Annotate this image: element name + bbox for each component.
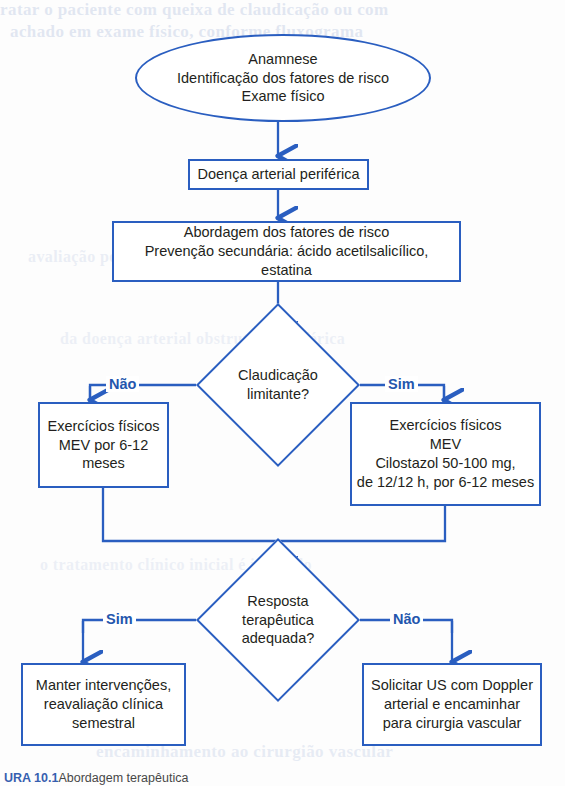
flowchart-page: tratar o paciente com queixa de claudica… [0,0,565,786]
claudication-decision-label: Claudicação limitante? [220,327,336,443]
start-ellipse-label: Anamnese Identificação dos fatores de ri… [173,50,393,107]
claudication-decision[interactable]: Claudicação limitante? [220,327,336,443]
branch-label-response-yes: Sim [103,611,136,627]
maintain-box[interactable]: Manter intervenções, reavaliação clínica… [21,663,186,746]
branch-label-claudication-yes: Sim [385,376,418,392]
management-box[interactable]: Abordagem dos fatores de risco Prevenção… [112,221,461,282]
response-decision-label: Resposta terapêutica adequada? [220,562,336,678]
diagnosis-box[interactable]: Doença arterial periférica [188,159,369,190]
refer-box[interactable]: Solicitar US com Doppler arterial e enca… [362,663,542,746]
figure-caption: URA 10.1Abordagem terapêutica [4,771,188,785]
wire-decision2-yes [83,620,196,633]
branch-label-claudication-no: Não [106,376,139,392]
treatment-left-box[interactable]: Exercícios físicos MEV por 6-12 meses [38,402,169,488]
figure-caption-label: URA 10.1 [4,771,58,785]
treatment-left-box-label: Exercícios físicos MEV por 6-12 meses [44,417,164,474]
branch-label-response-no: Não [390,611,423,627]
start-ellipse[interactable]: Anamnese Identificação dos fatores de ri… [135,34,431,122]
diagnosis-box-label: Doença arterial periférica [194,165,364,184]
maintain-box-label: Manter intervenções, reavaliação clínica… [32,676,175,733]
management-box-label: Abordagem dos fatores de risco Prevenção… [114,223,459,280]
treatment-right-box-label: Exercícios físicos MEV Cilostazol 50-100… [353,416,538,491]
response-decision[interactable]: Resposta terapêutica adequada? [220,562,336,678]
figure-caption-rest: Abordagem terapêutica [58,771,188,785]
treatment-right-box[interactable]: Exercícios físicos MEV Cilostazol 50-100… [350,402,541,506]
refer-box-label: Solicitar US com Doppler arterial e enca… [367,676,537,733]
